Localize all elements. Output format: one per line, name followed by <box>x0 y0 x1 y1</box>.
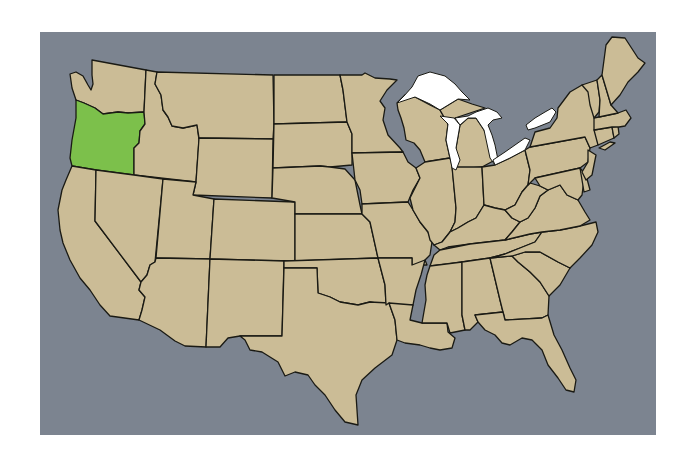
state-maine[interactable]: Maine <box>602 37 645 105</box>
state-mississippi[interactable]: Mississippi <box>422 262 465 333</box>
state-wyoming[interactable]: Wyoming <box>193 138 273 198</box>
state-south-dakota[interactable]: South Dakota <box>273 122 352 168</box>
state-arkansas[interactable]: Arkansas <box>378 258 425 305</box>
state-iowa[interactable]: Iowa <box>352 152 420 204</box>
us-map: WashingtonOregonCaliforniaIdahoNevadaMon… <box>0 0 690 459</box>
states-layer: WashingtonOregonCaliforniaIdahoNevadaMon… <box>58 37 645 425</box>
state-arizona[interactable]: Arizona <box>139 258 210 347</box>
state-new-mexico[interactable]: New Mexico <box>206 259 284 347</box>
state-florida[interactable]: Florida <box>475 312 576 392</box>
state-rhode-island[interactable]: Rhode Island <box>612 126 619 138</box>
state-north-dakota[interactable]: North Dakota <box>274 75 347 124</box>
state-colorado[interactable]: Colorado <box>210 199 295 261</box>
state-kansas[interactable]: Kansas <box>295 214 378 261</box>
